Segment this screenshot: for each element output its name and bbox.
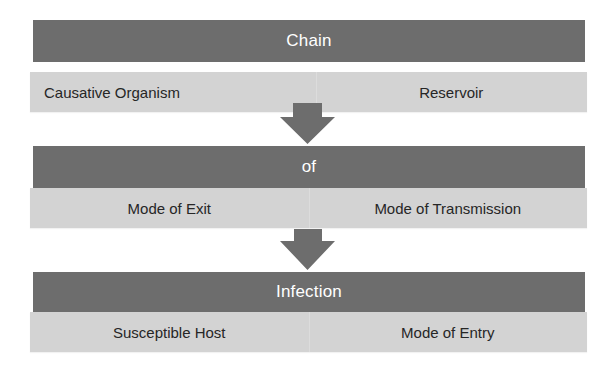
item-mode-of-exit: Mode of Exit: [30, 188, 309, 228]
item-reservoir: Reservoir: [316, 72, 588, 112]
item-label: Mode of Transmission: [374, 200, 521, 217]
down-arrow-icon: [280, 103, 336, 145]
item-mode-of-entry: Mode of Entry: [309, 312, 588, 352]
block-chain: Chain Causative Organism Reservoir: [33, 20, 586, 110]
header-label: of: [302, 157, 317, 177]
item-label: Reservoir: [419, 84, 483, 101]
item-mode-of-transmission: Mode of Transmission: [309, 188, 588, 228]
block-header-chain: Chain: [33, 20, 585, 62]
block-of: of Mode of Exit Mode of Transmission: [33, 146, 586, 228]
block-items-of: Mode of Exit Mode of Transmission: [30, 188, 587, 228]
chain-of-infection-diagram: Chain Causative Organism Reservoir of Mo…: [0, 0, 614, 369]
item-causative-organism: Causative Organism: [30, 72, 316, 112]
item-label: Susceptible Host: [113, 324, 226, 341]
block-header-of: of: [33, 146, 585, 188]
item-label: Mode of Entry: [401, 324, 494, 341]
item-label: Mode of Exit: [128, 200, 211, 217]
header-label: Infection: [276, 282, 342, 302]
block-items-infection: Susceptible Host Mode of Entry: [30, 312, 587, 352]
block-infection: Infection Susceptible Host Mode of Entry: [33, 272, 586, 352]
item-label: Causative Organism: [44, 84, 180, 101]
header-label: Chain: [286, 31, 331, 51]
block-header-infection: Infection: [33, 272, 585, 312]
item-susceptible-host: Susceptible Host: [30, 312, 309, 352]
down-arrow-icon: [280, 229, 336, 271]
